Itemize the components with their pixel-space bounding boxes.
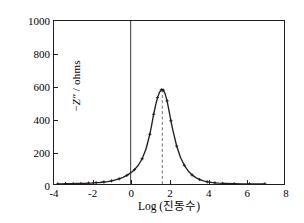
- data-point-marker: [95, 181, 98, 184]
- data-point-marker: [56, 182, 59, 184]
- y-tick-label-800: 800: [34, 49, 51, 60]
- x-tick-mark-2: [170, 180, 171, 184]
- data-point-marker: [110, 179, 113, 182]
- y-tick-label-600: 600: [34, 82, 51, 93]
- y-tick-label-400: 400: [34, 115, 51, 126]
- y-tick-mark-400: [54, 120, 58, 121]
- plot-frame: 02004006008001000 -4-202468 −Z″ / ohms: [53, 20, 285, 185]
- data-point-marker: [102, 180, 105, 183]
- data-point-marker: [175, 144, 178, 147]
- data-point-marker: [87, 182, 90, 184]
- x-tick-label-2: 2: [167, 188, 173, 199]
- x-tick-mark--2: [93, 180, 94, 184]
- x-axis-label: Log (진동수): [53, 200, 285, 213]
- x-tick-mark-4: [209, 180, 210, 184]
- data-point-marker: [248, 182, 251, 184]
- x-tick-label-0: 0: [129, 188, 135, 199]
- data-point-marker: [148, 133, 151, 136]
- data-point-marker: [152, 113, 155, 116]
- x-tick-mark-0: [131, 180, 132, 184]
- y-axis-label-symbol: Z″: [70, 94, 82, 105]
- data-line-0: [58, 89, 265, 183]
- y-tick-mark-800: [54, 54, 58, 55]
- data-point-marker: [169, 119, 172, 122]
- x-tick-mark-6: [247, 180, 248, 184]
- annotation-layer: [131, 21, 163, 184]
- data-series-layer: [58, 89, 265, 183]
- data-point-marker: [263, 182, 266, 184]
- y-axis-label: −Z″ / ohms: [70, 26, 82, 146]
- x-tick-label-4: 4: [206, 188, 212, 199]
- data-marker-layer: [56, 88, 266, 184]
- y-tick-mark-600: [54, 87, 58, 88]
- y-tick-label-200: 200: [34, 148, 51, 159]
- data-point-marker: [165, 99, 168, 102]
- plot-canvas: [54, 21, 284, 184]
- y-tick-label-1000: 1000: [28, 16, 50, 27]
- x-tick-label-6: 6: [245, 188, 251, 199]
- x-tick-label--2: -2: [88, 188, 97, 199]
- impedance-plot-figure: 02004006008001000 -4-202468 −Z″ / ohms L…: [0, 0, 304, 223]
- data-point-marker: [221, 182, 224, 184]
- x-tick-label--4: -4: [49, 188, 58, 199]
- y-axis-label-units: / ohms: [70, 60, 82, 94]
- y-axis-label-minus: −: [70, 105, 82, 111]
- y-tick-mark-200: [54, 153, 58, 154]
- x-tick-label-8: 8: [283, 188, 289, 199]
